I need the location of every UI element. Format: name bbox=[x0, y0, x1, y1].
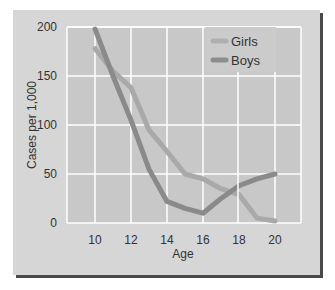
y-tick-label: 200 bbox=[37, 20, 57, 34]
x-tick-label: 10 bbox=[88, 233, 102, 247]
y-axis-ticks: 050100150200 bbox=[37, 20, 57, 230]
legend-boys-label: Boys bbox=[231, 53, 260, 68]
y-axis-label: Cases per 1,000 bbox=[25, 81, 39, 169]
y-tick-label: 0 bbox=[50, 216, 57, 230]
x-tick-label: 20 bbox=[268, 233, 282, 247]
x-axis-label: Age bbox=[172, 247, 194, 261]
y-tick-label: 150 bbox=[37, 69, 57, 83]
x-axis-ticks: 101214161820 bbox=[88, 233, 282, 247]
x-tick-label: 18 bbox=[232, 233, 246, 247]
y-tick-label: 100 bbox=[37, 118, 57, 132]
x-tick-label: 12 bbox=[124, 233, 138, 247]
x-tick-label: 14 bbox=[160, 233, 174, 247]
legend-girls-label: Girls bbox=[231, 34, 258, 49]
line-chart: 050100150200 101214161820 Girls Boys Age… bbox=[0, 0, 335, 290]
y-tick-label: 50 bbox=[44, 167, 58, 181]
x-tick-label: 16 bbox=[196, 233, 210, 247]
